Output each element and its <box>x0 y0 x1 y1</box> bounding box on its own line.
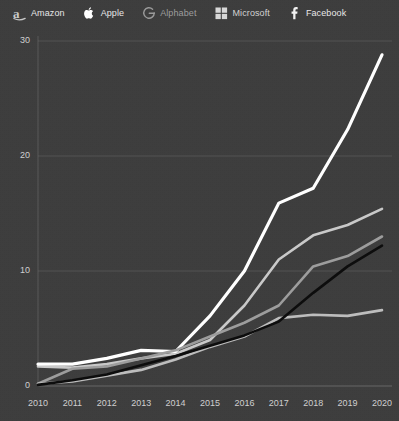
series-line-apple <box>38 55 382 364</box>
series-line-amazon <box>38 209 382 368</box>
alphabet-logo-icon <box>141 6 156 21</box>
legend-item-label: Apple <box>101 8 125 18</box>
facebook-logo-icon <box>287 6 302 21</box>
legend-item-amazon[interactable]: a Amazon <box>12 3 65 23</box>
legend-item-label: Alphabet <box>160 8 196 18</box>
y-tick-label: 10 <box>6 265 30 275</box>
legend-item-apple[interactable]: Apple <box>82 3 125 23</box>
series-line-facebook <box>38 246 382 385</box>
line-chart-plot <box>0 0 399 421</box>
legend-item-microsoft[interactable]: Microsoft <box>214 3 270 23</box>
microsoft-logo-icon <box>214 6 229 21</box>
chart-legend: a Amazon Apple Alphabet Microsoft Facebo… <box>0 0 399 26</box>
legend-item-label: Facebook <box>306 8 346 18</box>
chart-canvas: a Amazon Apple Alphabet Microsoft Facebo… <box>0 0 399 421</box>
legend-item-facebook[interactable]: Facebook <box>287 3 346 23</box>
apple-logo-icon <box>82 6 97 21</box>
y-tick-label: 30 <box>6 35 30 45</box>
legend-item-label: Amazon <box>31 8 65 18</box>
series-line-microsoft <box>38 310 382 384</box>
y-tick-label: 0 <box>6 380 30 390</box>
y-tick-label: 20 <box>6 150 30 160</box>
legend-item-label: Microsoft <box>233 8 270 18</box>
amazon-logo-icon: a <box>12 6 27 21</box>
legend-item-alphabet[interactable]: Alphabet <box>141 3 196 23</box>
series-line-alphabet <box>38 237 382 384</box>
x-tick-label: 2020 <box>362 398 399 408</box>
